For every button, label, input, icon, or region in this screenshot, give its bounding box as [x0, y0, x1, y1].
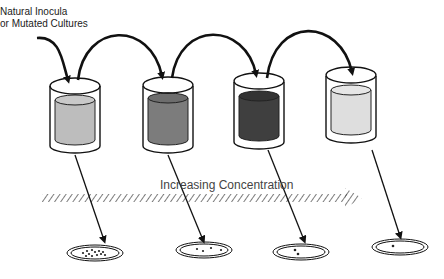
transfer-arrows: [37, 31, 352, 80]
beaker-2: [143, 77, 193, 153]
plate-1: [67, 245, 123, 261]
plate-2: [176, 242, 232, 258]
inoculation-arrow: [37, 38, 68, 80]
transfer-arrow-1: [78, 35, 162, 80]
transfer-arrow-2: [172, 35, 256, 78]
serial-transfer-diagram: [0, 0, 444, 279]
beaker-3: [234, 73, 284, 149]
beaker-4: [326, 67, 376, 143]
beaker-1: [50, 78, 100, 153]
plate-3: [273, 244, 329, 260]
plate-4: [372, 239, 428, 255]
transfer-arrow-3: [267, 31, 352, 78]
gradient-label: Increasing Concentration: [160, 178, 293, 192]
